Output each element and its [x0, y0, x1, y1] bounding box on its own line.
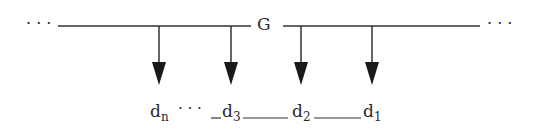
- arrow-dn: [152, 26, 166, 85]
- arrow-d2: [294, 26, 308, 85]
- output-label-d3: d3: [222, 101, 241, 124]
- output-label-d2: d2: [292, 101, 311, 124]
- output-label-dn: dn: [150, 101, 169, 124]
- output-label-d1: d1: [363, 101, 382, 124]
- bus-diagram: · · · G · · · dn · · · d3 d2 d1: [0, 0, 535, 133]
- ellipsis-between: · · ·: [178, 99, 202, 117]
- right-ellipsis: · · ·: [487, 14, 512, 33]
- arrow-d1: [365, 26, 379, 85]
- arrow-d3: [224, 26, 238, 85]
- bus-label: G: [257, 14, 271, 34]
- left-ellipsis: · · ·: [26, 14, 51, 33]
